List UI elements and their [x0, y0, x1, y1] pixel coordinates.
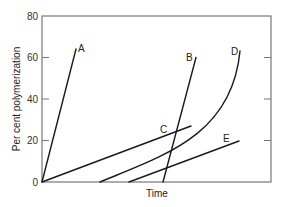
plot-frame — [42, 16, 271, 182]
label-a: A — [78, 43, 85, 54]
label-e: E — [223, 133, 230, 144]
curve-c — [42, 126, 191, 182]
label-d: D — [231, 46, 238, 57]
label-b: B — [186, 52, 193, 63]
curve-a — [42, 49, 76, 182]
curve-e — [129, 141, 239, 182]
y-tick-0: 0 — [32, 177, 38, 188]
label-c: C — [160, 124, 167, 135]
y-tick-80: 80 — [27, 11, 39, 22]
curve-d — [100, 51, 240, 182]
x-axis-label: Time — [146, 188, 168, 199]
polymerization-chart: 0 20 40 60 80 Per cent polymerization Ti… — [0, 0, 285, 207]
y-axis-right-ticks — [264, 58, 271, 141]
y-axis-label: Per cent polymerization — [11, 47, 22, 152]
y-axis-ticks — [42, 58, 49, 141]
y-tick-20: 20 — [27, 135, 39, 146]
y-tick-60: 60 — [27, 52, 39, 63]
y-tick-40: 40 — [27, 94, 39, 105]
